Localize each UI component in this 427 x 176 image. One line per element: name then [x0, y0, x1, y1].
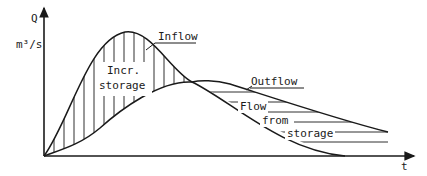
x-axis-label: t [401, 160, 408, 173]
inflow-label: Inflow [158, 30, 198, 43]
incr-storage-label-line2: storage [99, 79, 145, 92]
flow-from-storage-label-line2: from [262, 114, 289, 127]
flow-from-storage-label-line1: Flow [240, 100, 267, 113]
outflow-label: Outflow [251, 75, 298, 88]
incr-storage-label-line1: Incr. [107, 64, 140, 77]
y-axis-label: Q [31, 12, 38, 25]
hydrograph-diagram: Q m³/s t Inflow Outflow Incr. storage Fl… [0, 0, 427, 176]
flow-from-storage-label-line3: storage [287, 127, 333, 140]
y-axis-unit: m³/s [16, 38, 43, 51]
